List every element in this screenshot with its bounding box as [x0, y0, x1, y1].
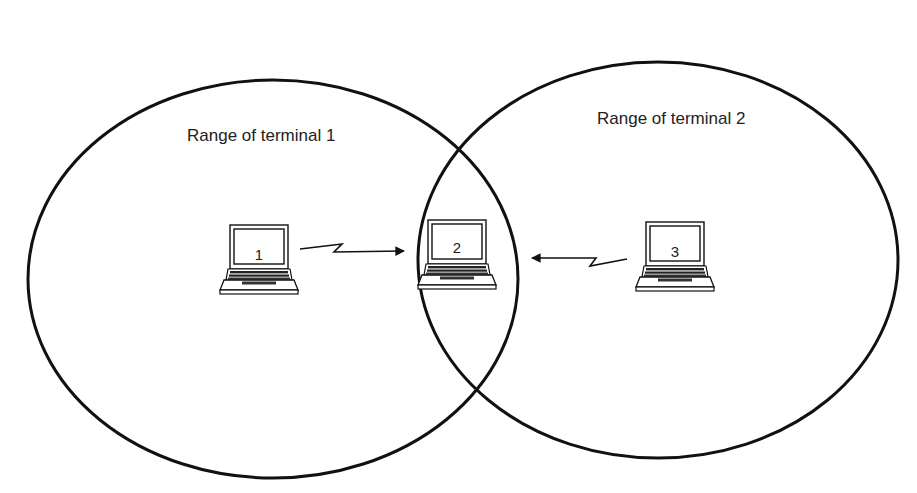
terminal-3-number: 3 [671, 243, 679, 260]
wireless-link-3-to-2 [532, 258, 627, 266]
hidden-terminal-diagram: Range of terminal 1 Range of terminal 2 … [0, 0, 917, 493]
range-label-terminal-2: Range of terminal 2 [597, 109, 745, 128]
terminal-1-number: 1 [255, 246, 263, 263]
range-label-terminal-1: Range of terminal 1 [187, 126, 335, 145]
terminal-2-number: 2 [453, 239, 461, 256]
terminal-3: 3 [636, 222, 714, 291]
wireless-link-1-to-2 [300, 244, 404, 252]
terminal-1: 1 [220, 225, 298, 294]
terminal-2: 2 [418, 220, 496, 289]
